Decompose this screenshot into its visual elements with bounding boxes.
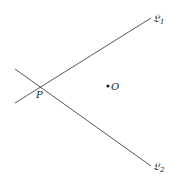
- line-l2-label: 𝔏2: [153, 160, 165, 174]
- point-o-dot: [106, 84, 109, 87]
- point-p-label: P: [35, 89, 43, 100]
- point-o-label: O: [111, 81, 119, 92]
- diagram-canvas: P O 𝔏1 𝔏2: [0, 0, 173, 189]
- geometry-figure: P O 𝔏1 𝔏2: [0, 0, 173, 189]
- line-l1-label: 𝔏1: [153, 12, 164, 26]
- line-l2: [15, 69, 151, 166]
